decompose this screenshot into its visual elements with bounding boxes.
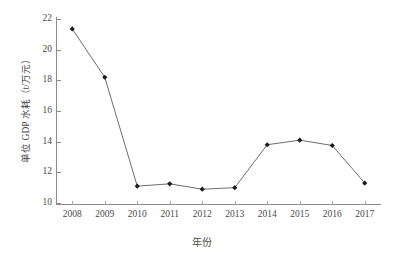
x-axis-title: 年份 (0, 234, 404, 249)
y-axis-title: 单位 GDP 水耗（t/万元） (21, 39, 32, 179)
data-point (200, 187, 205, 192)
data-point (167, 181, 172, 186)
plot-area (0, 0, 404, 268)
line-chart: 10121416182022 2008200920102011201220132… (0, 0, 404, 268)
data-point (135, 184, 140, 189)
series-line (72, 29, 365, 189)
data-point (297, 138, 302, 143)
